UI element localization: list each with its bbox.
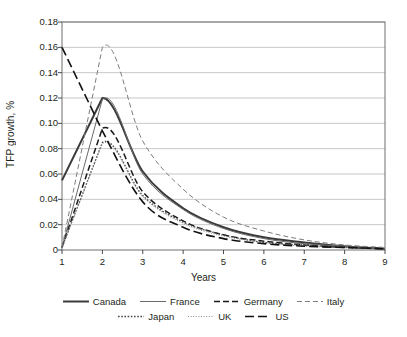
series-line-us [62, 47, 385, 248]
x-tick-label: 8 [335, 256, 355, 267]
series-line-canada [62, 98, 385, 249]
x-tick-label: 4 [173, 256, 193, 267]
legend-item-us[interactable]: US [245, 311, 288, 322]
legend-key-italy [297, 297, 323, 306]
legend-label: UK [218, 311, 231, 322]
x-tick-label: 7 [294, 256, 314, 267]
legend-key-japan [118, 312, 144, 321]
y-tick-label: 0.02 [18, 220, 58, 230]
legend-key-france [140, 297, 166, 306]
plot-frame [62, 22, 385, 250]
x-tick-label: 6 [254, 256, 274, 267]
chart-figure: TFP growth, % 00.020.040.060.080.100.120… [0, 0, 407, 337]
plot-area [0, 0, 407, 337]
y-tick-label: 0.08 [18, 144, 58, 154]
legend-label: Germany [244, 296, 283, 307]
legend-row-1: CanadaFranceGermanyItaly [0, 294, 407, 309]
x-tick-label: 5 [214, 256, 234, 267]
legend-item-japan[interactable]: Japan [118, 311, 174, 322]
x-tick-label: 9 [375, 256, 395, 267]
x-tick-label: 3 [133, 256, 153, 267]
y-tick-label: 0.14 [18, 68, 58, 78]
legend-key-germany [214, 297, 240, 306]
legend-item-italy[interactable]: Italy [297, 296, 344, 307]
x-tick-label: 2 [92, 256, 112, 267]
legend-key-us [245, 312, 271, 321]
legend-item-uk[interactable]: UK [188, 311, 231, 322]
y-tick-label: 0.12 [18, 93, 58, 103]
x-tick-label: 1 [52, 256, 72, 267]
series-line-japan [62, 141, 385, 248]
legend-item-canada[interactable]: Canada [63, 296, 126, 307]
x-axis-title: Years [0, 272, 407, 283]
legend-key-uk [188, 312, 214, 321]
series-line-uk [62, 143, 385, 249]
series-line-france [62, 98, 385, 249]
legend-row-2: JapanUKUS [0, 309, 407, 324]
legend-label: Italy [327, 296, 344, 307]
y-tick-label: 0.18 [18, 17, 58, 27]
y-tick-label: 0.10 [18, 118, 58, 128]
legend-label: US [275, 311, 288, 322]
legend-item-france[interactable]: France [140, 296, 200, 307]
chart-legend: CanadaFranceGermanyItaly JapanUKUS [0, 294, 407, 324]
legend-label: France [170, 296, 200, 307]
y-tick-label: 0.16 [18, 42, 58, 52]
legend-key-canada [63, 297, 89, 306]
y-tick-label: 0.06 [18, 169, 58, 179]
legend-label: Japan [148, 311, 174, 322]
y-tick-label: 0 [18, 245, 58, 255]
legend-label: Canada [93, 296, 126, 307]
y-axis-tick-labels: 00.020.040.060.080.100.120.140.160.18 [14, 0, 58, 337]
y-tick-label: 0.04 [18, 194, 58, 204]
legend-item-germany[interactable]: Germany [214, 296, 283, 307]
